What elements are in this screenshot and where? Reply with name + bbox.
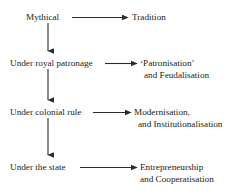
outcome-line-3b: and Institutionalisation	[134, 119, 222, 131]
outcome-line-1a: Tradition	[132, 12, 166, 22]
stage-label-4: Under the state	[10, 162, 66, 173]
outcome-line-3a: Modernisation,	[134, 107, 190, 117]
flow-diagram: Mythical Tradition Under royal patronage…	[0, 0, 237, 195]
outcome-label-2: ‘Patronisation’ and Feudalisation	[140, 58, 209, 81]
outcome-line-2b: and Feudalisation	[140, 70, 209, 82]
outcome-line-2a: ‘Patronisation’	[140, 58, 195, 68]
stage-label-2: Under royal patronage	[10, 58, 93, 69]
outcome-label-3: Modernisation, and Institutionalisation	[134, 107, 222, 130]
outcome-line-4a: Entrepreneurship	[140, 162, 203, 172]
outcome-label-4: Entrepreneurship and Cooperatisation	[140, 162, 214, 185]
stage-label-1: Mythical	[26, 12, 59, 23]
outcome-label-1: Tradition	[132, 12, 166, 24]
stage-label-3: Under colonial rule	[10, 107, 81, 118]
outcome-line-4b: and Cooperatisation	[140, 174, 214, 186]
